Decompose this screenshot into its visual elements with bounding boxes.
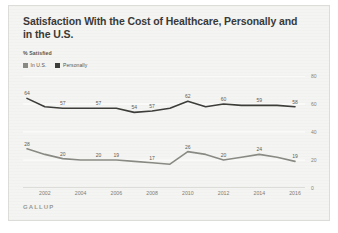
chart-card: Satisfaction With the Cost of Healthcare… <box>8 5 330 221</box>
x-axis-tick-label: 2008 <box>146 190 158 196</box>
x-axis: 20022004200620082010201220142016 <box>23 190 305 202</box>
data-point-label: 57 <box>60 100 66 106</box>
data-point-label: 19 <box>292 153 298 159</box>
line-chart-svg <box>23 76 305 188</box>
data-point-label: 60 <box>221 96 227 102</box>
x-axis-tick-label: 2006 <box>111 190 123 196</box>
data-point-label: 62 <box>185 93 191 99</box>
data-point-label: 28 <box>24 141 30 147</box>
data-point-label: 24 <box>256 146 262 152</box>
data-point-label: 17 <box>149 155 155 161</box>
x-axis-tick-label: 2012 <box>218 190 230 196</box>
y-axis: 020406080 <box>309 76 330 188</box>
legend-label: Personally <box>63 62 87 68</box>
data-point-label: 54 <box>131 104 137 110</box>
x-axis-tick-label: 2010 <box>182 190 194 196</box>
x-axis-tick-label: 2014 <box>253 190 265 196</box>
data-point-label: 59 <box>256 97 262 103</box>
data-point-label: 64 <box>24 90 30 96</box>
series-line <box>27 149 295 164</box>
y-axis-tick-label: 40 <box>311 129 317 135</box>
y-axis-tick-label: 60 <box>311 101 317 107</box>
data-point-label: 20 <box>60 151 66 157</box>
data-point-label: 58 <box>292 99 298 105</box>
y-axis-tick-label: 20 <box>311 157 317 163</box>
chart-title: Satisfaction With the Cost of Healthcare… <box>23 15 309 41</box>
gallup-logo: GALLUP <box>23 204 54 210</box>
data-point-label: 57 <box>149 103 155 109</box>
data-point-label: 19 <box>114 152 120 158</box>
x-axis-tick-label: 2004 <box>75 190 87 196</box>
series-line <box>27 98 295 112</box>
legend-entry[interactable]: Personally <box>55 62 87 68</box>
data-point-label: 20 <box>96 152 102 158</box>
chart-subtitle: % Satisfied <box>23 50 52 56</box>
x-axis-tick-label: 2016 <box>289 190 301 196</box>
chart-legend: In U.S.Personally <box>23 62 87 68</box>
y-axis-tick-label: 80 <box>311 73 317 79</box>
legend-label: In U.S. <box>31 62 47 68</box>
legend-swatch-icon <box>23 63 28 68</box>
y-axis-tick-label: 0 <box>311 185 314 191</box>
legend-entry[interactable]: In U.S. <box>23 62 46 68</box>
x-axis-tick-label: 2002 <box>39 190 51 196</box>
plot-area: 645757545762605958282020191726202419 <box>23 76 305 188</box>
data-point-label: 26 <box>185 144 191 150</box>
data-point-label: 57 <box>96 100 102 106</box>
legend-swatch-icon <box>55 63 60 68</box>
data-point-label: 20 <box>221 152 227 158</box>
